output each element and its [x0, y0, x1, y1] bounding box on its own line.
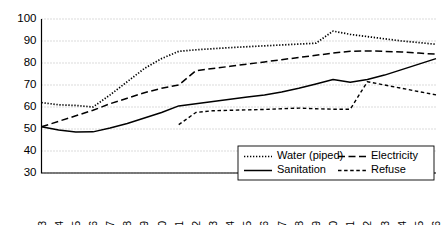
x-tick-label: 1995 — [70, 221, 82, 225]
legend-label-refuse: Refuse — [371, 163, 406, 175]
chart-background — [0, 0, 443, 225]
y-tick-label: 70 — [24, 78, 37, 90]
x-tick-label: 2004 — [224, 221, 236, 225]
x-tick-label: 2008 — [293, 221, 305, 225]
y-tick-label: 90 — [24, 34, 37, 46]
x-tick-label: 2006 — [258, 221, 270, 225]
y-tick-label: 80 — [24, 56, 37, 68]
x-tick-label: 1999 — [138, 221, 150, 225]
x-tick-label: 2007 — [276, 221, 288, 225]
x-tick-label: 2003 — [207, 221, 219, 225]
x-tick-label: 1996 — [87, 221, 99, 225]
x-tick-label: 2014 — [396, 221, 408, 225]
legend-label-sanitation: Sanitation — [277, 163, 326, 175]
x-tick-label: 2012 — [361, 221, 373, 225]
legend-label-water-piped: Water (piped) — [277, 149, 343, 161]
x-tick-label: 1998 — [121, 221, 133, 225]
x-tick-label: 2009 — [310, 221, 322, 225]
x-tick-label: 2015 — [413, 221, 425, 225]
y-tick-label: 50 — [24, 122, 37, 134]
chart-legend: Water (piped)ElectricitySanitationRefuse — [238, 146, 434, 180]
x-tick-label: 1997 — [104, 221, 116, 225]
x-tick-label: 2002 — [190, 221, 202, 225]
x-tick-label: 2000 — [156, 221, 168, 225]
x-tick-label: 2010 — [327, 221, 339, 225]
y-tick-label: 30 — [24, 166, 37, 178]
x-tick-label: 2013 — [379, 221, 391, 225]
x-tick-label: 1993 — [36, 221, 48, 225]
y-tick-label: 40 — [24, 144, 37, 156]
chart-canvas: 10090807060504030 1993199419951996199719… — [0, 0, 443, 225]
legend-label-electricity: Electricity — [371, 149, 419, 161]
y-tick-label: 60 — [24, 100, 37, 112]
x-tick-label: 2011 — [344, 221, 356, 225]
line-chart: 10090807060504030 1993199419951996199719… — [0, 0, 443, 225]
x-tick-label: 2016 — [430, 221, 442, 225]
y-tick-label: 100 — [17, 12, 36, 24]
x-tick-label: 1994 — [53, 221, 65, 225]
x-tick-label: 2001 — [173, 221, 185, 225]
x-tick-label: 2005 — [241, 221, 253, 225]
